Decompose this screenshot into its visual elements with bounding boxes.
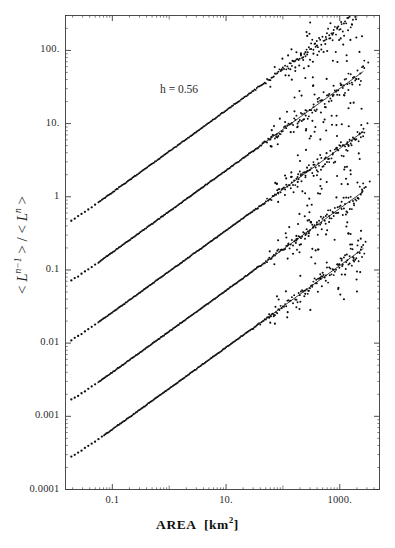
y-tick-label: 1: [14, 190, 60, 201]
x-tick-label: 1000.: [310, 494, 370, 505]
figure-page: < Ln−1 > / < Ln > AREA [km2] h = 0.56 10…: [0, 0, 395, 548]
y-tick-label: 10.: [14, 117, 60, 128]
y-axis-title: < Ln−1 > / < Ln >: [13, 125, 31, 365]
y-tick-label: 0.001: [14, 409, 60, 420]
x-axis-title: AREA [km2]: [0, 515, 395, 533]
data-point-cloud: [70, 16, 371, 458]
power-law-fit-lines: [98, 71, 364, 435]
y-tick-label: 0.1: [14, 263, 60, 274]
x-tick-label: 10.: [196, 494, 256, 505]
y-tick-label: 0.01: [14, 336, 60, 347]
x-tick-label: 0.1: [82, 494, 142, 505]
y-tick-label: 0.0001: [14, 483, 60, 494]
y-tick-label: 100.: [14, 43, 60, 54]
h-value-annotation: h = 0.56: [160, 83, 198, 95]
